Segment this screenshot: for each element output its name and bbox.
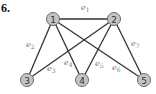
edge-label-e4: e4	[64, 58, 73, 68]
graph-diagram: e1e2e3e4e5e6e7 12345	[0, 0, 156, 94]
node-label: 3	[24, 76, 30, 86]
edge-label-e2: e2	[26, 40, 35, 50]
node-4: 4	[76, 74, 89, 87]
node-label: 2	[111, 15, 117, 25]
node-3: 3	[21, 74, 34, 87]
edges-layer	[27, 19, 144, 80]
node-label: 5	[141, 76, 147, 86]
node-5: 5	[138, 74, 151, 87]
edge-label-e1: e1	[81, 3, 90, 13]
edge-label-e7: e7	[131, 39, 140, 49]
node-1: 1	[47, 13, 60, 26]
edge-label-e6: e6	[112, 63, 121, 73]
node-2: 2	[108, 13, 121, 26]
edge-label-e3: e3	[47, 64, 56, 74]
edge-label-e5: e5	[95, 59, 104, 69]
node-label: 4	[79, 76, 85, 86]
edge-e6	[53, 19, 144, 80]
node-label: 1	[50, 15, 56, 25]
